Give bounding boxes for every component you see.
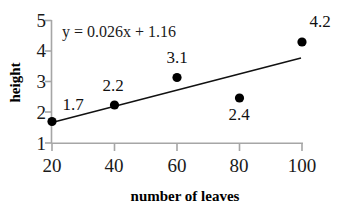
trendline-equation-label: y = 0.026x + 1.16 — [62, 24, 176, 40]
data-point — [235, 93, 244, 102]
data-point-label-5: 4.2 — [303, 13, 337, 30]
y-axis-title: height — [7, 53, 24, 113]
y-tick-label-3: 3 — [20, 72, 46, 91]
x-tick-label-20: 20 — [30, 156, 74, 175]
scatter-chart: y = 0.026x + 1.16 5 4 3 2 1 20 40 60 80 … — [0, 0, 345, 212]
y-tick-label-5: 5 — [20, 11, 46, 30]
x-tick-label-60: 60 — [155, 156, 199, 175]
data-point-label-1: 1.7 — [56, 96, 90, 113]
data-point — [172, 73, 181, 82]
data-point — [47, 117, 56, 126]
y-tick-label-1: 1 — [20, 134, 46, 153]
x-tick-label-40: 40 — [92, 156, 136, 175]
data-point — [297, 37, 306, 46]
data-point — [110, 100, 119, 109]
data-point-label-3: 3.1 — [160, 49, 194, 66]
x-axis-ticks — [52, 143, 302, 151]
data-point-label-2: 2.2 — [96, 77, 130, 94]
y-tick-label-4: 4 — [20, 41, 46, 60]
x-tick-label-80: 80 — [217, 156, 261, 175]
x-tick-label-100: 100 — [280, 156, 324, 175]
y-tick-label-2: 2 — [20, 103, 46, 122]
data-point-label-4: 2.4 — [222, 106, 256, 123]
x-axis-title: number of leaves — [85, 188, 285, 205]
